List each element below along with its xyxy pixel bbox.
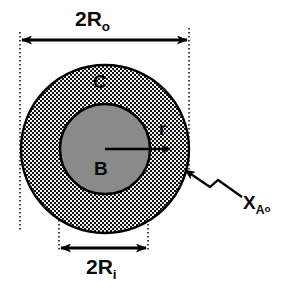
label-region-c: C [93, 72, 107, 91]
leader-line-xao [185, 170, 242, 197]
label-surface-species-xao: XAo [243, 193, 271, 212]
label-xao-base: X [243, 192, 256, 213]
label-outer-diameter-subscript: o [102, 19, 110, 34]
label-inner-diameter: 2Ri [86, 256, 117, 277]
label-inner-diameter-base: 2R [86, 255, 113, 278]
diagram-vector-layer [0, 0, 296, 293]
label-xao-subsubscript: o [264, 203, 270, 214]
label-radial-coordinate: r [159, 120, 166, 138]
label-outer-diameter-base: 2R [75, 7, 102, 30]
label-inner-diameter-subscript: i [113, 267, 117, 282]
label-region-b: B [94, 159, 108, 178]
diagram-canvas: 2Ro 2Ri C B r XAo [0, 0, 296, 293]
label-outer-diameter: 2Ro [75, 8, 110, 29]
